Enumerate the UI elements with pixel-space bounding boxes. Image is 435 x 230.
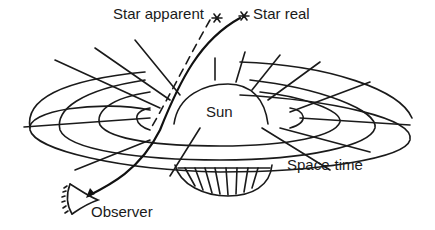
space-time-label: Space-time — [287, 157, 363, 172]
star-apparent-label: Star apparent — [113, 6, 204, 21]
star-real-label: Star real — [253, 6, 310, 21]
apparent-light-path — [150, 20, 210, 130]
sun-shape — [174, 84, 272, 196]
sun-label: Sun — [206, 104, 233, 119]
lensing-diagram: Star apparent Star real Sun Space-time O… — [0, 0, 435, 230]
observer-label: Observer — [91, 204, 153, 219]
star-apparent-icon — [212, 14, 222, 22]
